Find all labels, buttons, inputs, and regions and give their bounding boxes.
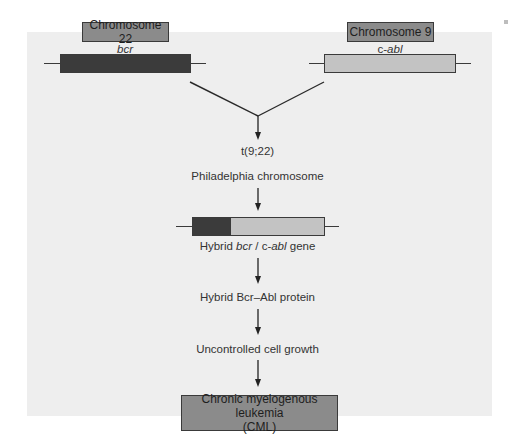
hybrid-gene-label-pre: Hybrid	[200, 240, 236, 252]
uncontrolled-growth-label: Uncontrolled cell growth	[0, 343, 515, 355]
philadelphia-chromosome-label: Philadelphia chromosome	[0, 170, 515, 182]
cml-line-2: (CML)	[182, 420, 337, 434]
merge-line-right	[258, 82, 324, 116]
merge-line-left	[190, 82, 258, 116]
arrow-to-hybrid-gene-icon	[255, 188, 261, 211]
arrow-to-translocation-icon	[255, 116, 261, 140]
hybrid-gene-label-post: gene	[287, 240, 316, 252]
margin-text-fragment	[504, 20, 508, 24]
arrow-to-cml-icon	[255, 360, 261, 387]
hybrid-gene-label-sep: / c-	[252, 240, 271, 252]
arrow-to-growth-icon	[255, 309, 261, 335]
arrow-to-protein-icon	[255, 258, 261, 284]
hybrid-gene-label-abl: abl	[271, 240, 286, 252]
hybrid-gene-label: Hybrid bcr / c-abl gene	[0, 240, 515, 252]
cml-outcome-box: Chronic myelogenous leukemia (CML)	[181, 395, 338, 431]
hybrid-protein-label: Hybrid Bcr–Abl protein	[0, 291, 515, 303]
hybrid-gene-label-bcr: bcr	[236, 240, 252, 252]
cml-line-1: Chronic myelogenous leukemia	[182, 392, 337, 420]
translocation-label: t(9;22)	[0, 145, 515, 157]
hybrid-bcr-segment	[192, 217, 231, 236]
